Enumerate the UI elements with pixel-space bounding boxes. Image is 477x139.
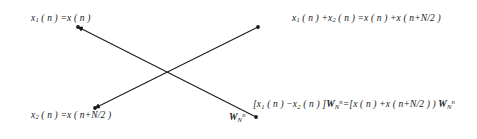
label-output-top: x1 ( n ) +x2 ( n ) =x ( n ) +x ( n+N/2 ) (292, 14, 441, 24)
branch-bottom-to-top (95, 27, 258, 108)
label-output-bottom-w2-sup: n (452, 98, 455, 105)
label-input-bottom: x2 ( n ) =x ( n+N/2 ) (31, 111, 111, 121)
node-output-top (256, 25, 260, 29)
label-output-top-seg1-rest: ( n ) +x (300, 13, 333, 23)
label-output-bottom-seg3: ( n ) ] (301, 99, 326, 109)
node-output-bottom (254, 115, 258, 119)
label-input-top-rest: ( n ) =x ( n ) (39, 13, 91, 23)
label-input-bottom-rest: ( n ) =x ( n+N/2 ) (39, 110, 111, 120)
label-input-top: x1 ( n ) =x ( n ) (31, 14, 91, 24)
label-output-bottom-seg4: =[x ( n ) +x ( n+N/2 ) ) (343, 99, 439, 109)
label-output-bottom-seg1: [x (253, 99, 261, 109)
node-input-top (76, 25, 80, 29)
label-output-bottom-seg2: ( n ) −x (265, 99, 298, 109)
label-twiddle-factor: WNn (229, 112, 246, 123)
label-twiddle-sup: n (242, 111, 245, 118)
label-output-top-seg2-rest: ( n ) =x ( n ) +x ( n+N/2 ) (336, 13, 441, 23)
label-output-bottom-w1: W (326, 99, 335, 109)
label-output-bottom-w2: W (438, 99, 447, 109)
butterfly-diagram-canvas: x1 ( n ) =x ( n ) x1 ( n ) +x2 ( n ) =x … (0, 0, 477, 139)
label-twiddle-base: W (229, 112, 238, 122)
label-output-bottom: [x1 ( n ) −x2 ( n ) ]WNn=[x ( n ) +x ( n… (253, 99, 455, 110)
